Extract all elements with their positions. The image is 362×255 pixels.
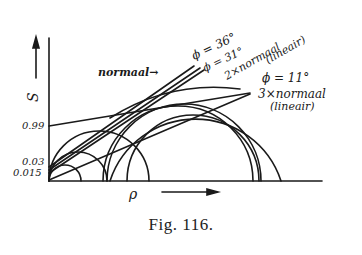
label-normaal: normaal→ [98, 66, 158, 79]
label-phi11: ϕ = 11° [262, 71, 309, 85]
tick-0.015: 0.015 [13, 167, 42, 178]
envelope-normaal [49, 66, 194, 167]
x-arrow-head-icon [207, 189, 218, 195]
x-axis-label: ρ [128, 186, 138, 202]
y-arrow-head-icon [33, 37, 39, 48]
label-lineair-2: (lineair) [270, 100, 315, 113]
tick-0.99: 0.99 [22, 120, 45, 131]
circle-c [127, 115, 259, 181]
figure-caption: Fig. 116. [0, 215, 362, 235]
y-axis-label: S [25, 92, 41, 102]
label-3x-normaal: 3×normaal [258, 87, 326, 101]
tick-0.03: 0.03 [22, 156, 44, 167]
